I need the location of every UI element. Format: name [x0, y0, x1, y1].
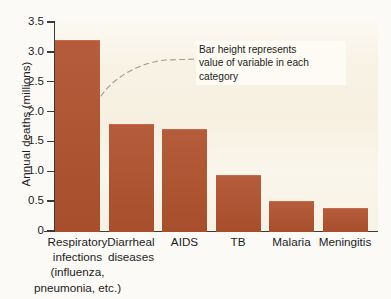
annotation-line-1: Bar height represents [199, 43, 343, 56]
y-axis-tick [47, 171, 54, 172]
y-axis-tick-label: 0.5 [4, 195, 44, 207]
category-label-line: diseases [75, 249, 187, 264]
y-axis-tick [47, 51, 54, 52]
bar-chart: Annual deaths (millions) 3.53.02.52.01.5… [0, 0, 391, 299]
bar [109, 124, 154, 232]
y-axis-tick [47, 230, 54, 231]
y-axis-title: Annual deaths (millions) [20, 34, 32, 214]
y-axis-tick [47, 81, 54, 82]
annotation-line-3: category [199, 70, 343, 83]
y-axis-tick [47, 21, 54, 22]
bar [269, 201, 314, 232]
y-axis-tick-label: 3.0 [4, 46, 44, 58]
y-axis-tick [47, 141, 54, 142]
y-axis-tick-label: 3.5 [4, 16, 44, 28]
y-axis-tick-label: 2.0 [4, 106, 44, 118]
bar [162, 129, 207, 232]
bar [55, 40, 100, 232]
category-label-line: (influenza, [22, 264, 134, 279]
category-label-line: Meningitis [289, 234, 391, 249]
y-axis-tick [47, 111, 54, 112]
y-axis-tick [47, 200, 54, 201]
bar [323, 208, 368, 232]
y-axis-tick-label: 1.0 [4, 165, 44, 177]
annotation-callout: Bar height represents value of variable … [196, 41, 346, 85]
annotation-connector-icon [95, 40, 205, 100]
bar [216, 175, 261, 232]
category-label-line: pneumonia, etc.) [22, 280, 134, 295]
annotation-line-2: value of variable in each [199, 56, 343, 69]
x-axis-category-label: Meningitis [289, 234, 391, 249]
y-axis-tick-label: 2.5 [4, 76, 44, 88]
y-axis-tick-label: 1.5 [4, 135, 44, 147]
